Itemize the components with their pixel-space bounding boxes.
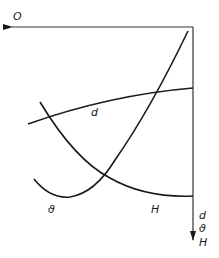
characteristic-diagram: O d ϑ H d H ϑ (0, 0, 219, 258)
curve-d: d (28, 88, 193, 124)
vertical-axis-label-h: H (199, 236, 207, 249)
curve-h-path (40, 102, 193, 196)
vertical-axis-label-theta: ϑ (199, 222, 206, 235)
curve-d-label: d (91, 106, 99, 119)
horizontal-axis: O (12, 10, 193, 27)
curve-theta: ϑ (34, 31, 188, 216)
curve-h-label: H (151, 203, 159, 216)
vertical-axis: d ϑ H (193, 27, 207, 249)
vertical-axis-label-d: d (199, 209, 207, 222)
curve-d-path (28, 88, 193, 124)
curve-theta-label: ϑ (48, 203, 55, 216)
horizontal-axis-label: O (13, 10, 22, 23)
